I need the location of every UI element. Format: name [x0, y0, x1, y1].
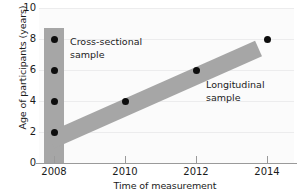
x-tick-label-2008: 2008 — [29, 166, 79, 177]
data-point — [51, 129, 58, 136]
data-point — [51, 36, 58, 43]
cross-sectional-annotation-line2: sample — [70, 49, 142, 62]
longitudinal-annotation: Longitudinal sample — [206, 79, 265, 104]
data-point — [51, 67, 58, 74]
y-tick-label-10: 10 — [12, 2, 36, 13]
y-tick-label-4: 4 — [12, 95, 36, 106]
data-point — [193, 67, 200, 74]
y-tick-label-6: 6 — [12, 64, 36, 75]
longitudinal-annotation-line2: sample — [206, 92, 265, 105]
data-point — [264, 36, 271, 43]
y-tick-label-2: 2 — [12, 126, 36, 137]
cross-sectional-annotation: Cross-sectional sample — [70, 36, 142, 61]
longitudinal-annotation-line1: Longitudinal — [206, 79, 265, 92]
gridline-6 — [39, 70, 294, 71]
x-tick-label-2012: 2012 — [171, 166, 221, 177]
x-axis-title: Time of measurement — [42, 180, 288, 191]
x-tick-2014 — [267, 156, 268, 164]
x-tick-2010 — [125, 156, 126, 164]
y-tick-label-8: 8 — [12, 33, 36, 44]
x-tick-2012 — [196, 156, 197, 164]
data-point — [122, 98, 129, 105]
chart-figure: Age of participants (years) Cross-sectio… — [0, 0, 307, 195]
plot-area: Cross-sectional sample Longitudinal samp… — [39, 8, 294, 163]
gridline-10 — [39, 8, 294, 9]
x-tick-label-2010: 2010 — [100, 166, 150, 177]
cross-sectional-annotation-line1: Cross-sectional — [70, 36, 142, 49]
x-axis-line — [36, 163, 297, 164]
data-point — [51, 98, 58, 105]
x-tick-2008 — [54, 156, 55, 164]
x-tick-label-2014: 2014 — [242, 166, 292, 177]
